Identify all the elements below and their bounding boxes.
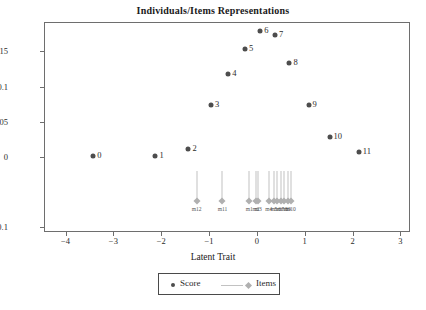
y-tick-label: −0.1 (0, 222, 8, 232)
x-tick-label: 1 (303, 236, 307, 246)
x-tick-mark (353, 232, 354, 236)
x-tick-mark (257, 232, 258, 236)
score-point (327, 134, 332, 139)
score-point (153, 153, 158, 158)
y-tick-mark (40, 87, 44, 88)
x-tick-label: 2 (350, 236, 354, 246)
item-label: m12 (192, 206, 202, 212)
score-point-label: 6 (264, 25, 268, 35)
x-tick-label: −1 (205, 236, 214, 246)
score-point (91, 154, 96, 159)
score-point-label: 3 (215, 99, 219, 109)
legend-items-line-icon (221, 285, 243, 286)
y-tick-label: 0.1 (0, 82, 8, 92)
y-tick-label: 0 (4, 152, 8, 162)
x-tick-label: −2 (157, 236, 166, 246)
chart-legend: Score Items (158, 273, 280, 295)
y-tick-mark (40, 51, 44, 52)
x-tick-mark (209, 232, 210, 236)
score-point-label: 1 (159, 150, 163, 160)
item-label: m3 (255, 206, 262, 212)
x-axis-label: Latent Trait (0, 252, 426, 262)
x-tick-label: 3 (398, 236, 402, 246)
item-label: m10 (286, 206, 296, 212)
y-tick-mark (40, 122, 44, 123)
x-tick-mark (400, 232, 401, 236)
score-point (208, 103, 213, 108)
y-tick-label: 0.15 (0, 46, 8, 56)
score-point (186, 147, 191, 152)
item-label: m11 (218, 206, 228, 212)
legend-items-label: Items (256, 278, 276, 288)
x-tick-mark (113, 232, 114, 236)
x-tick-label: 0 (255, 236, 259, 246)
legend-score-label: Score (180, 278, 201, 288)
chart-root: Individuals/Items Representations 0.150.… (0, 0, 426, 310)
x-tick-label: −4 (61, 236, 70, 246)
y-tick-label: 0.05 (0, 117, 8, 127)
x-tick-mark (66, 232, 67, 236)
x-tick-mark (305, 232, 306, 236)
score-point (258, 29, 263, 34)
score-point-label: 0 (97, 150, 101, 160)
plot-frame (44, 22, 410, 232)
score-point-label: 9 (313, 99, 317, 109)
score-point (287, 61, 292, 66)
x-tick-label: −3 (109, 236, 118, 246)
legend-items-diamond-icon (245, 282, 252, 289)
legend-score-marker-icon (171, 283, 175, 287)
x-tick-mark (161, 232, 162, 236)
score-point-label: 4 (232, 68, 236, 78)
score-point (356, 149, 361, 154)
chart-title: Individuals/Items Representations (0, 5, 426, 16)
score-point (273, 32, 278, 37)
score-point-label: 2 (192, 143, 196, 153)
score-point-label: 8 (293, 57, 297, 67)
score-point-label: 7 (279, 29, 283, 39)
score-point (226, 72, 231, 77)
y-tick-mark (40, 227, 44, 228)
score-point (306, 102, 311, 107)
score-point-label: 11 (363, 146, 371, 156)
score-point (242, 47, 247, 52)
y-tick-mark (40, 157, 44, 158)
score-point-label: 5 (249, 43, 253, 53)
score-point-label: 10 (334, 131, 343, 141)
